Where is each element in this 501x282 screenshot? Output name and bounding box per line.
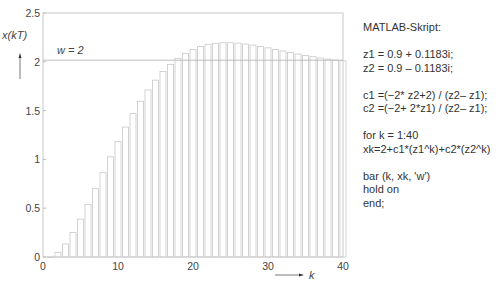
code-line: c2 =(−2+ 2*z1) / (z2– z1); xyxy=(363,102,501,116)
x-axis-arrow-icon xyxy=(275,274,304,277)
bar xyxy=(108,157,114,257)
bar xyxy=(160,72,166,257)
y-tick-label: 1 xyxy=(34,153,40,165)
bar xyxy=(220,43,226,257)
y-axis-arrow-icon xyxy=(19,53,22,79)
bar xyxy=(123,127,129,257)
code-line: end; xyxy=(363,197,501,211)
bar xyxy=(115,142,121,257)
y-tick-label: 2.5 xyxy=(25,7,40,19)
bar-chart: w = 2 00.511.522.5 010203040 x(kT) k xyxy=(0,0,350,282)
code-line: z2 = 0.9 – 0.1183i; xyxy=(363,62,501,76)
code-line: for k = 1:40 xyxy=(363,129,501,143)
bar xyxy=(190,49,196,257)
bar xyxy=(228,43,234,257)
bar xyxy=(183,53,189,257)
x-axis-ticks: 010203040 xyxy=(40,260,349,272)
bar xyxy=(70,233,76,257)
bar xyxy=(168,64,174,257)
x-tick-label: 40 xyxy=(337,260,349,272)
bar xyxy=(153,80,159,257)
bar xyxy=(175,58,181,257)
bar xyxy=(318,58,324,257)
bar xyxy=(310,57,316,257)
bar xyxy=(205,45,211,257)
bar xyxy=(265,48,271,257)
blank-line xyxy=(363,116,501,130)
x-tick-label: 30 xyxy=(262,260,274,272)
bar xyxy=(250,45,256,257)
code-line: z1 = 0.9 + 0.1183i; xyxy=(363,48,501,62)
bar xyxy=(145,90,151,257)
matlab-script-panel: MATLAB-Skript: z1 = 0.9 + 0.1183i;z2 = 0… xyxy=(363,21,501,210)
code-line: c1 =(−2* z2+2) / (z2– z1); xyxy=(363,89,501,103)
code-line: hold on xyxy=(363,183,501,197)
bar xyxy=(100,173,106,257)
code-line: bar (k, xk, 'w') xyxy=(363,170,501,184)
x-axis-label: k xyxy=(309,269,315,281)
script-heading: MATLAB-Skript: xyxy=(363,21,501,35)
bar xyxy=(288,53,294,257)
y-axis-label: x(kT) xyxy=(1,29,27,41)
bar xyxy=(280,51,286,257)
bar xyxy=(63,244,69,257)
bar xyxy=(235,43,241,257)
bar xyxy=(273,49,279,257)
bar xyxy=(55,252,61,257)
bar xyxy=(243,44,249,257)
blank-line xyxy=(363,75,501,89)
bar xyxy=(213,43,219,257)
bar xyxy=(138,101,144,257)
bar xyxy=(85,204,91,257)
bar xyxy=(303,55,309,257)
y-tick-label: 0.5 xyxy=(25,202,40,214)
bar xyxy=(333,60,339,257)
bar xyxy=(325,59,331,257)
bar-series xyxy=(48,43,347,258)
script-code: z1 = 0.9 + 0.1183i;z2 = 0.9 – 0.1183i;c1… xyxy=(363,48,501,210)
reference-label: w = 2 xyxy=(57,44,84,56)
x-tick-label: 10 xyxy=(112,260,124,272)
bar xyxy=(130,114,136,257)
blank-line xyxy=(363,156,501,170)
bar xyxy=(78,219,84,257)
code-line: xk=2+c1*(z1^k)+c2*(z2^k) xyxy=(363,143,501,157)
y-tick-label: 2 xyxy=(34,56,40,68)
y-tick-label: 1.5 xyxy=(25,105,40,117)
bar xyxy=(295,54,301,257)
bar xyxy=(258,46,264,257)
bar xyxy=(198,47,204,257)
bar xyxy=(93,189,99,257)
x-tick-label: 0 xyxy=(40,260,46,272)
x-tick-label: 20 xyxy=(187,260,199,272)
